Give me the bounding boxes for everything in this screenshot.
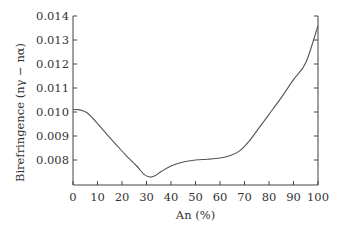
y-tick-label: 0.012 (36, 57, 69, 71)
y-tick-label: 0.009 (36, 129, 69, 143)
x-axis-title: An (%) (175, 208, 215, 222)
y-tick-label: 0.011 (36, 81, 69, 95)
y-tick-label: 0.013 (36, 33, 69, 47)
birefringence-chart: 0102030405060708090100 0.0080.0090.0100.… (0, 0, 340, 238)
x-tick-label: 100 (307, 190, 329, 204)
x-tick-label: 10 (90, 190, 105, 204)
x-tick-label: 40 (164, 190, 179, 204)
x-tick-label: 80 (262, 190, 277, 204)
x-tick-label: 60 (213, 190, 228, 204)
series-line (73, 26, 318, 177)
x-tick-label: 20 (115, 190, 130, 204)
x-ticks: 0102030405060708090100 (69, 181, 329, 204)
y-tick-label: 0.014 (36, 9, 69, 23)
y-axis-title: Birefringence (nγ − nα) (13, 43, 27, 182)
y-tick-label: 0.008 (36, 153, 69, 167)
data-series (73, 26, 318, 177)
x-tick-label: 90 (286, 190, 301, 204)
x-tick-label: 70 (237, 190, 252, 204)
y-ticks: 0.0080.0090.0100.0110.0120.0130.014 (36, 9, 318, 167)
y-tick-label: 0.010 (36, 105, 69, 119)
x-tick-label: 0 (69, 190, 76, 204)
x-tick-label: 30 (139, 190, 154, 204)
x-tick-label: 50 (188, 190, 203, 204)
